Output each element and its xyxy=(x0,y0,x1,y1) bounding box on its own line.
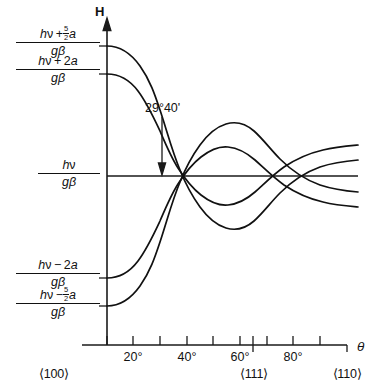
y-axis-ticks xyxy=(99,46,107,306)
direction-label-110: ⟨110⟩ xyxy=(319,366,375,381)
x-tick-label-60: 60° xyxy=(220,350,260,364)
crossing-angle-annotation: 29°40' xyxy=(145,101,180,115)
y-label-hv: hν gβ xyxy=(38,158,100,189)
direction-label-100: ⟨100⟩ xyxy=(26,366,82,381)
y-label-hv-minus-5-2a: hν −52a gβ xyxy=(16,286,100,319)
direction-label-111: ⟨111⟩ xyxy=(226,366,282,381)
y-axis-title: H xyxy=(95,4,104,19)
y-label-hv-plus-2a: hν + 2a gβ xyxy=(16,54,100,85)
x-tick-label-40: 40° xyxy=(167,350,207,364)
x-tick-label-20: 20° xyxy=(113,350,153,364)
y-axis xyxy=(103,18,111,345)
x-tick-label-80: 80° xyxy=(273,350,313,364)
x-axis-title: θ xyxy=(357,339,364,354)
y-label-hv-minus-2a: hν − 2a gβ xyxy=(16,258,100,289)
figure-container: H θ hν +52a gβ hν + 2a gβ hν gβ hν − 2a … xyxy=(0,0,379,392)
